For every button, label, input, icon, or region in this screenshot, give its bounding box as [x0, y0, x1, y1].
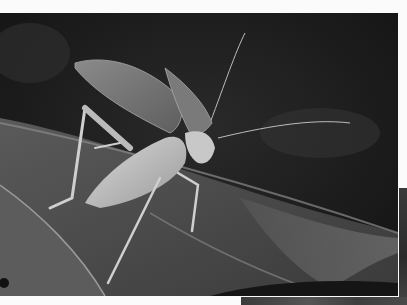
- katydid-photo: [0, 13, 398, 296]
- adjacent-photo-edge-bottom: [241, 297, 407, 305]
- adjacent-photo-edge-right: [399, 188, 407, 305]
